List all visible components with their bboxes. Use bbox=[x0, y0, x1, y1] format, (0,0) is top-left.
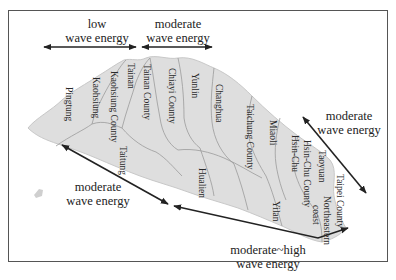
place-taoyuan: Taoyuan bbox=[317, 150, 327, 183]
zone-moderate-west-line1: moderate bbox=[138, 17, 218, 31]
zone-label-low: low wave energy bbox=[62, 17, 132, 45]
place-hsin-chu-county: Hsin-Chu County bbox=[302, 140, 312, 207]
place-tainan-county: Tainan County bbox=[142, 64, 152, 120]
place-changhua: Changhua bbox=[214, 84, 224, 123]
zone-moderate-north-line1: moderate bbox=[306, 109, 392, 123]
zone-moderate-high-line1: moderate~high bbox=[218, 243, 318, 257]
place-taitung: Taitung bbox=[118, 146, 128, 175]
zone-label-moderate-west: moderate wave energy bbox=[138, 17, 218, 45]
place-pingtung: Pingtung bbox=[64, 87, 74, 121]
zone-moderate-north-line2: wave energy bbox=[306, 123, 392, 137]
zone-label-moderate-north: moderate wave energy bbox=[306, 109, 392, 137]
place-kaohsiung: Kaohsiung bbox=[91, 77, 101, 118]
zone-label-moderate-east: moderate wave energy bbox=[58, 180, 138, 208]
place-yunlin: Yunlin bbox=[190, 73, 200, 98]
place-miaoli: Miaoli bbox=[268, 120, 278, 145]
place-kaohsiung-county: Kaohsiung County bbox=[109, 71, 119, 143]
zone-label-moderate-high: moderate~high wave energy bbox=[218, 243, 318, 271]
zone-moderate-east-line1: moderate bbox=[58, 180, 138, 194]
place-chiayi-county: Chiayi County bbox=[167, 68, 177, 124]
small-island bbox=[34, 189, 43, 198]
place-hualien: Hualien bbox=[197, 168, 207, 198]
place-yilan: Yilan bbox=[271, 201, 281, 222]
place-tainan: Tainan bbox=[126, 63, 136, 89]
zone-low-line1: low bbox=[62, 17, 132, 31]
place-taipei-county: Taipei County bbox=[335, 174, 345, 228]
place-taichung-county: Taichung County bbox=[245, 104, 255, 170]
place-coast: coast bbox=[311, 205, 321, 225]
place-northeastern: Northeastern bbox=[322, 196, 332, 245]
zone-moderate-east-line2: wave energy bbox=[58, 194, 138, 208]
place-hsin-chu: Hsin-Chu bbox=[290, 135, 300, 172]
zone-moderate-high-line2: wave energy bbox=[218, 257, 318, 271]
zone-moderate-west-line2: wave energy bbox=[138, 31, 218, 45]
zone-low-line2: wave energy bbox=[62, 31, 132, 45]
